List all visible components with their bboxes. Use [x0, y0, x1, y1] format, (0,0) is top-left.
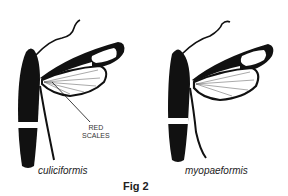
species-label-myopaeformis: myopaeformis — [185, 165, 248, 176]
annotation-line-2: SCALES — [82, 132, 110, 140]
moth-myopaeformis-icon — [168, 21, 273, 162]
moth-culiciformis-icon — [18, 20, 124, 168]
red-scales-annotation: RED SCALES — [82, 124, 110, 140]
species-label-culiciformis: culiciformis — [38, 165, 87, 176]
annotation-line-1: RED — [82, 124, 110, 132]
figure-caption: Fig 2 — [123, 180, 149, 192]
